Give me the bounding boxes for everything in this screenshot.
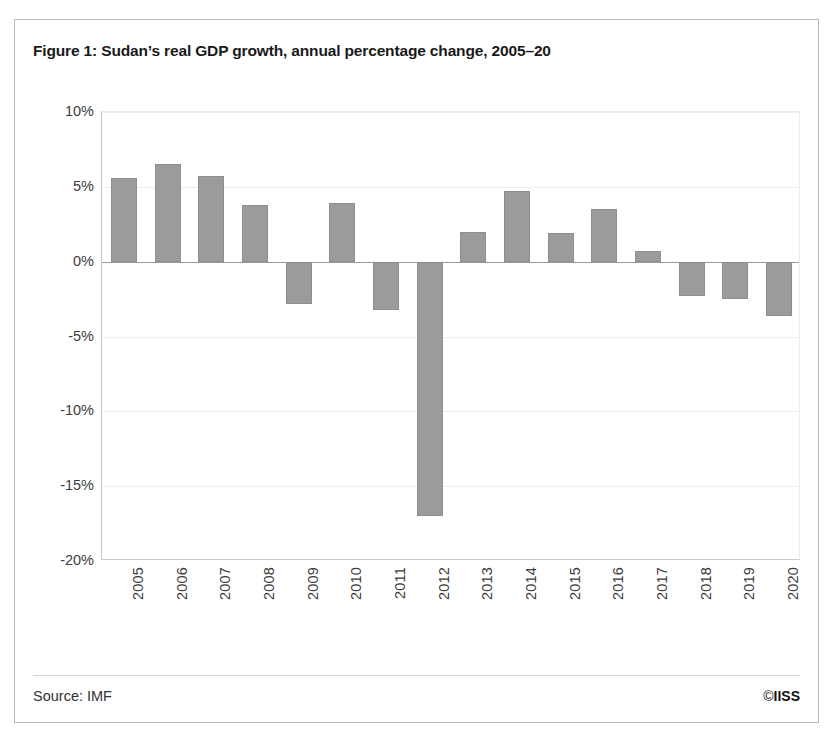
chart-bar xyxy=(286,262,312,304)
footer-divider xyxy=(33,675,800,676)
bar-slot xyxy=(626,112,670,559)
x-axis-tick-label: 2011 xyxy=(392,567,408,599)
chart-bar xyxy=(504,191,530,261)
x-axis-tick-label: 2017 xyxy=(654,567,670,600)
bar-slot xyxy=(714,112,758,559)
chart-bar xyxy=(635,251,661,261)
y-axis-tick-label: -10% xyxy=(24,402,94,418)
x-axis-tick-label: 2008 xyxy=(261,567,277,600)
x-axis-tick-label: 2020 xyxy=(785,567,801,600)
x-axis-tick-label: 2019 xyxy=(741,567,757,600)
chart-bars-layer xyxy=(102,112,799,559)
chart-bar xyxy=(766,262,792,316)
y-axis-tick-label: 0% xyxy=(24,253,94,269)
bar-slot xyxy=(670,112,714,559)
x-axis-tick-label: 2014 xyxy=(523,567,539,600)
x-axis-tick-label: 2009 xyxy=(305,567,321,600)
chart-plot-area xyxy=(101,111,800,560)
x-axis-tick-label: 2013 xyxy=(479,567,495,600)
chart-bar xyxy=(679,262,705,296)
figure-title: Figure 1: Sudan’s real GDP growth, annua… xyxy=(33,42,551,60)
bar-slot xyxy=(102,112,146,559)
chart-bar xyxy=(417,262,443,516)
chart-bar xyxy=(155,164,181,261)
x-axis-tick-label: 2007 xyxy=(217,567,233,600)
y-axis-tick-label: -5% xyxy=(24,328,94,344)
y-axis-tick-label: 5% xyxy=(24,178,94,194)
chart-bar xyxy=(242,205,268,262)
chart-bar xyxy=(548,233,574,261)
chart-bar xyxy=(460,232,486,262)
bar-slot xyxy=(277,112,321,559)
bar-slot xyxy=(320,112,364,559)
x-axis-tick-label: 2006 xyxy=(174,567,190,600)
chart-bar xyxy=(722,262,748,299)
figure-card: Figure 1: Sudan’s real GDP growth, annua… xyxy=(14,19,819,723)
bar-slot xyxy=(146,112,190,559)
bar-slot xyxy=(495,112,539,559)
bar-slot xyxy=(189,112,233,559)
copyright-owner: IISS xyxy=(774,688,800,704)
chart-bar xyxy=(111,178,137,262)
source-note: Source: IMF xyxy=(33,688,112,704)
bar-slot xyxy=(364,112,408,559)
x-axis-tick-label: 2005 xyxy=(130,567,146,600)
bar-slot xyxy=(452,112,496,559)
bar-slot xyxy=(408,112,452,559)
y-axis-tick-label: -20% xyxy=(24,552,94,568)
chart-bar xyxy=(591,209,617,261)
chart-bar xyxy=(373,262,399,310)
copyright-icon: © xyxy=(763,688,773,704)
bar-slot xyxy=(583,112,627,559)
x-axis-tick-label: 2018 xyxy=(698,567,714,600)
x-axis-tick-label: 2015 xyxy=(567,567,583,600)
chart-bar xyxy=(198,176,224,261)
x-axis-tick-label: 2010 xyxy=(348,567,364,600)
chart-bar xyxy=(329,203,355,261)
x-axis-tick-label: 2016 xyxy=(610,567,626,600)
y-axis-tick-label: -15% xyxy=(24,477,94,493)
chart-plot-region: 10%5%0%-5%-10%-15%-20% 20052006200720082… xyxy=(101,111,800,560)
bar-slot xyxy=(539,112,583,559)
copyright-note: ©IISS xyxy=(763,688,800,704)
bar-slot xyxy=(233,112,277,559)
y-axis-tick-label: 10% xyxy=(24,103,94,119)
x-axis-tick-label: 2012 xyxy=(436,567,452,600)
bar-slot xyxy=(757,112,800,559)
